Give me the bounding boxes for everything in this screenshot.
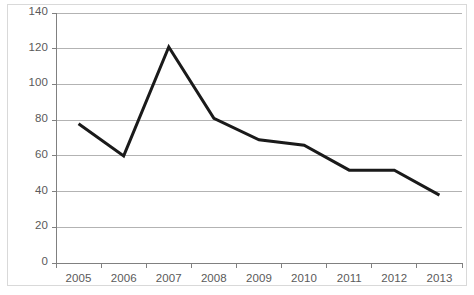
x-axis-label-2006: 2006 <box>99 272 149 284</box>
line-chart-figure: 020406080100120140 200520062007200820092… <box>0 0 474 295</box>
x-axis-label-2008: 2008 <box>189 272 239 284</box>
y-axis-label-0: 0 <box>8 255 48 267</box>
x-axis-label-2013: 2013 <box>414 272 464 284</box>
x-axis-label-2005: 2005 <box>54 272 104 284</box>
y-axis-label-140: 140 <box>8 5 48 17</box>
y-axis-label-40: 40 <box>8 184 48 196</box>
chart-plot-area <box>0 0 474 295</box>
y-axis-label-100: 100 <box>8 76 48 88</box>
x-axis-label-2012: 2012 <box>369 272 419 284</box>
gridline-group <box>56 13 462 263</box>
x-axis-label-2007: 2007 <box>144 272 194 284</box>
y-axis-label-120: 120 <box>8 41 48 53</box>
x-axis-label-2011: 2011 <box>324 272 374 284</box>
x-axis-label-2010: 2010 <box>279 272 329 284</box>
data-line-series-0 <box>79 47 440 195</box>
y-axis-label-60: 60 <box>8 148 48 160</box>
tick-mark-group <box>52 13 462 268</box>
y-axis-label-20: 20 <box>8 219 48 231</box>
y-axis-label-80: 80 <box>8 112 48 124</box>
x-axis-label-2009: 2009 <box>234 272 284 284</box>
data-series-group <box>79 47 440 195</box>
